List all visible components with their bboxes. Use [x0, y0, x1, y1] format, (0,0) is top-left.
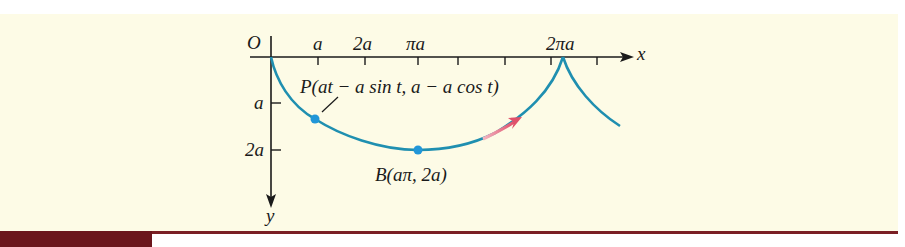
x-tick-label-2pi-a: 2πa — [546, 34, 575, 53]
point-B-label: B(aπ, 2a) — [375, 165, 447, 184]
x-tick-label-a: a — [313, 34, 323, 53]
y-tick-label-a: a — [254, 93, 264, 112]
x-axis — [250, 52, 634, 65]
point-P-label: P(at − a sin t, a − a cos t) — [300, 77, 499, 96]
y-axis-label: y — [266, 206, 274, 225]
cycloid-next-arch — [563, 57, 620, 126]
y-tick-label-2a: 2a — [245, 140, 264, 159]
origin-label: O — [247, 33, 261, 52]
cycloid-figure — [0, 0, 905, 247]
point-P-marker — [311, 115, 320, 124]
bottom-tab-block — [0, 231, 152, 247]
direction-arrow — [483, 117, 522, 139]
cycloid-curve — [271, 57, 563, 150]
x-tick-label-2a: 2a — [353, 34, 372, 53]
point-B-marker — [414, 146, 423, 155]
x-axis-label: x — [637, 44, 645, 63]
p-leader-line — [322, 97, 338, 112]
x-tick-label-pi-a: πa — [406, 34, 425, 53]
